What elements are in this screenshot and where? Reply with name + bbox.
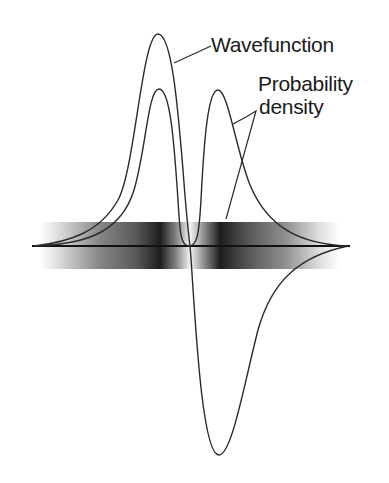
probability-density-label-line1: Probability — [258, 73, 353, 95]
wavefunction-leader — [174, 46, 211, 63]
probability-density-label-line2: density — [259, 96, 323, 118]
probability-leader — [226, 111, 256, 219]
wavefunction-label: Wavefunction — [211, 34, 334, 56]
wavefunction-diagram: Wavefunction Probability density — [0, 0, 389, 483]
